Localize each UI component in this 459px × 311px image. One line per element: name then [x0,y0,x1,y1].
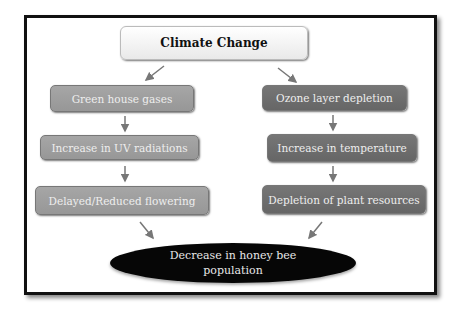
node-green-house-gases: Green house gases [50,85,194,112]
node-delayed-flowering: Delayed/Reduced flowering [35,186,209,215]
outcome-label: Decrease in honey bee population [168,248,298,278]
arrow-root-left [146,66,164,80]
node-increase-uv: Increase in UV radiations [40,135,199,160]
arrow-right-outcome [309,222,322,238]
node-depletion-plant-resources: Depletion of plant resources [262,185,426,214]
node-climate-change: Climate Change [120,26,308,60]
node-decrease-honey-bee: Decrease in honey bee population [110,243,356,283]
node-increase-temperature: Increase in temperature [267,134,417,162]
arrow-left-outcome [140,222,153,238]
node-ozone-depletion: Ozone layer depletion [262,85,407,111]
arrow-root-right [278,68,296,82]
